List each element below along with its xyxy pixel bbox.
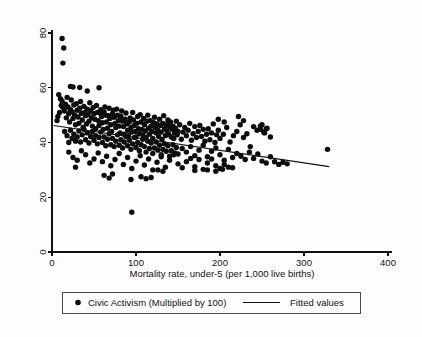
scatter-point — [60, 60, 65, 65]
scatter-point — [205, 160, 210, 165]
scatter-point — [101, 173, 106, 178]
scatter-point — [150, 151, 155, 156]
scatter-point — [251, 156, 256, 161]
scatter-point — [227, 139, 232, 144]
scatter-point — [80, 117, 85, 122]
scatter-point — [205, 167, 210, 172]
scatter-point — [145, 112, 150, 117]
y-tick-label-60: 60 — [37, 82, 48, 93]
scatter-point — [103, 143, 108, 148]
scatter-point — [120, 145, 125, 150]
scatter-point — [125, 155, 130, 160]
scatter-point — [61, 45, 66, 50]
scatter-point — [184, 133, 189, 138]
scatter-point — [142, 162, 147, 167]
scatter-point — [264, 126, 269, 131]
scatter-point — [230, 155, 235, 160]
scatter-point — [80, 132, 85, 137]
scatter-point — [91, 156, 96, 161]
scatter-point — [187, 121, 192, 126]
scatter-point — [221, 132, 226, 137]
y-tick-label-80: 80 — [37, 28, 48, 39]
x-tick-label-200: 200 — [212, 257, 228, 268]
scatter-point — [209, 130, 214, 135]
scatter-point — [87, 100, 92, 105]
scatter-point — [234, 129, 239, 134]
scatter-plot-svg: 020406080 0100200300400 Mortality rate, … — [0, 0, 422, 337]
scatter-point — [184, 149, 189, 154]
scatter-point — [199, 134, 204, 139]
scatter-point — [105, 137, 110, 142]
scatter-point — [128, 147, 133, 152]
scatter-point — [179, 137, 184, 142]
scatter-point — [230, 165, 235, 170]
scatter-point — [177, 122, 182, 127]
scatter-point — [201, 127, 206, 132]
chart-figure: 020406080 0100200300400 Mortality rate, … — [0, 0, 422, 337]
scatter-point — [155, 167, 160, 172]
scatter-point — [185, 127, 190, 132]
scatter-point — [236, 114, 241, 119]
x-tick-label-300: 300 — [296, 257, 312, 268]
x-axis-title: Mortality rate, under-5 (per 1,000 live … — [130, 268, 315, 279]
scatter-point — [96, 85, 101, 90]
scatter-point — [143, 176, 148, 181]
legend: Civic Activism (Multiplied by 100) Fitte… — [62, 292, 360, 313]
scatter-point — [161, 113, 166, 118]
scatter-point — [110, 171, 115, 176]
scatter-point — [174, 145, 179, 150]
scatter-point — [241, 118, 246, 123]
scatter-point — [325, 147, 330, 152]
scatter-point — [180, 165, 185, 170]
scatter-point — [196, 157, 201, 162]
scatter-point — [73, 164, 78, 169]
scatter-point — [224, 125, 229, 130]
scatter-point — [130, 110, 135, 115]
scatter-point — [220, 167, 225, 172]
scatter-point — [268, 134, 273, 139]
scatter-point — [146, 156, 151, 161]
scatter-point — [69, 97, 74, 102]
scatter-point — [78, 139, 83, 144]
scatter-point — [86, 140, 91, 145]
scatter-point — [128, 177, 133, 182]
scatter-point — [121, 162, 126, 167]
scatter-point — [213, 169, 218, 174]
scatter-point — [142, 144, 147, 149]
scatter-point — [216, 127, 221, 132]
scatter-point — [96, 150, 101, 155]
x-tick-label-400: 400 — [380, 257, 396, 268]
scatter-point — [209, 156, 214, 161]
scatter-point — [75, 134, 80, 139]
scatter-point — [195, 129, 200, 134]
scatter-point — [192, 168, 197, 173]
scatter-point — [104, 153, 109, 158]
scatter-point — [85, 88, 90, 93]
scatter-point — [95, 141, 100, 146]
legend-label-fitted: Fitted values — [290, 297, 344, 308]
scatter-point — [78, 99, 83, 104]
scatter-point — [188, 156, 193, 161]
scatter-point — [154, 160, 159, 165]
scatter-point — [189, 138, 194, 143]
scatter-point — [150, 167, 155, 172]
scatter-point — [138, 153, 143, 158]
scatter-point — [108, 163, 113, 168]
scatter-point — [123, 110, 128, 115]
scatter-point — [171, 152, 176, 157]
scatter-point — [94, 103, 99, 108]
scatter-point — [148, 140, 153, 145]
scatter-point — [100, 159, 105, 164]
scatter-point — [285, 161, 290, 166]
scatter-point — [222, 119, 227, 124]
scatter-point — [79, 148, 84, 153]
scatter-point — [75, 158, 80, 163]
scatter-point — [180, 146, 185, 151]
scatter-point — [264, 160, 269, 165]
x-tick-label-0: 0 — [49, 257, 54, 268]
scatter-point — [137, 148, 142, 153]
scatter-point — [64, 133, 69, 138]
scatter-point — [54, 118, 59, 123]
scatter-point — [244, 131, 249, 136]
scatter-point — [129, 166, 134, 171]
